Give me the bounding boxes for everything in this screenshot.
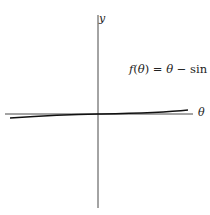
func-sin: sin: [190, 62, 210, 76]
func-equals: =: [149, 62, 166, 76]
function-label: f(θ) = θ − sin θ: [129, 62, 210, 76]
func-minus: −: [173, 62, 190, 76]
y-axis-label: y: [99, 12, 105, 25]
plot-area: [0, 0, 210, 215]
x-axis-label: θ: [198, 106, 205, 119]
func-theta: θ: [138, 62, 145, 76]
